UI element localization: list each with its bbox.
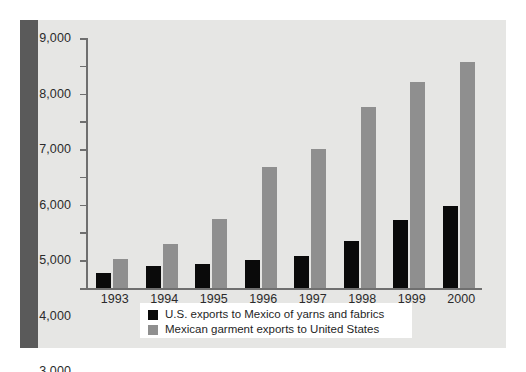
left-accent-bar	[20, 20, 38, 348]
y-tick-mark: 9,000	[80, 38, 86, 40]
bar-us-exports-1996	[245, 260, 260, 288]
y-tick-mark: 1,000	[80, 260, 86, 262]
bar-group: 1999	[387, 38, 437, 288]
x-tick-label: 1993	[90, 292, 140, 306]
bar-us-exports-1995	[195, 264, 210, 288]
bar-us-exports-1999	[393, 220, 408, 288]
y-tick-mark: 4,000	[80, 177, 86, 179]
bar-group: 2000	[437, 38, 487, 288]
bar-group: 1995	[189, 38, 239, 288]
x-axis-line	[86, 288, 482, 290]
bar-group: 1993	[90, 38, 140, 288]
bar-mexican-exports-1998	[361, 107, 376, 288]
bar-us-exports-1997	[294, 256, 309, 288]
y-tick-label: 5,000	[39, 253, 71, 267]
y-tick-label: 7,000	[39, 142, 71, 156]
legend-item: U.S. exports to Mexico of yarns and fabr…	[148, 308, 404, 321]
y-tick-mark: 6,000	[80, 121, 86, 123]
y-tick-label: 3,000	[39, 364, 71, 372]
bar-mexican-exports-1993	[113, 259, 128, 288]
y-tick-label: 8,000	[39, 87, 71, 101]
bar-mexican-exports-1999	[410, 82, 425, 288]
bar-group: 1998	[338, 38, 388, 288]
y-tick-label: 4,000	[39, 309, 71, 323]
bar-us-exports-2000	[443, 206, 458, 288]
y-tick-mark: 8,000	[80, 66, 86, 68]
chart-legend: U.S. exports to Mexico of yarns and fabr…	[140, 303, 412, 338]
bar-mexican-exports-1996	[262, 167, 277, 288]
bar-mexican-exports-2000	[460, 62, 475, 288]
plot-area: 01,0002,0003,0004,0005,0006,0007,0008,00…	[86, 38, 482, 288]
bar-mexican-exports-1994	[163, 244, 178, 288]
legend-label: Mexican garment exports to United States	[165, 323, 379, 336]
bar-mexican-exports-1995	[212, 219, 227, 288]
bar-group: 1997	[288, 38, 338, 288]
chart-figure-panel: 01,0002,0003,0004,0005,0006,0007,0008,00…	[20, 20, 506, 348]
y-tick-mark: 2,000	[80, 232, 86, 234]
legend-swatch-icon	[148, 310, 158, 320]
legend-label: U.S. exports to Mexico of yarns and fabr…	[165, 308, 384, 321]
bar-group: 1996	[239, 38, 289, 288]
y-tick-mark: 3,000	[80, 205, 86, 207]
bar-us-exports-1993	[96, 273, 111, 288]
bar-group: 1994	[140, 38, 190, 288]
bar-us-exports-1998	[344, 241, 359, 288]
bar-mexican-exports-1997	[311, 149, 326, 288]
y-tick-label: 6,000	[39, 198, 71, 212]
bar-us-exports-1994	[146, 266, 161, 288]
y-tick-mark: 7,000	[80, 94, 86, 96]
y-tick-mark: 5,000	[80, 149, 86, 151]
y-axis-line	[86, 38, 88, 288]
legend-swatch-icon	[148, 325, 158, 335]
x-tick-label: 2000	[437, 292, 487, 306]
legend-item: Mexican garment exports to United States	[148, 323, 404, 336]
y-tick-label: 9,000	[39, 31, 71, 45]
y-tick-mark: 0	[80, 288, 86, 290]
